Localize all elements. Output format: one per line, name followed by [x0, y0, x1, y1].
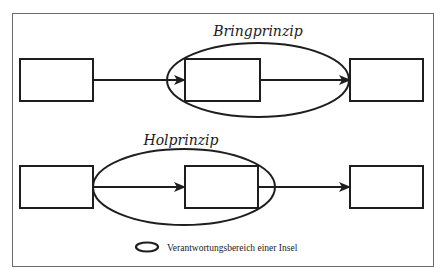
process-box-3: [350, 166, 423, 208]
row-bringprinzip: Bringprinzip: [20, 23, 423, 117]
principle-diagram: Bringprinzip Holprinzip Verantwortungsbe…: [0, 0, 445, 276]
row-holprinzip: Holprinzip: [20, 132, 423, 225]
diagram-frame: [13, 14, 434, 267]
process-box-1: [20, 166, 93, 208]
process-box-1: [20, 59, 93, 101]
row-title-bringprinzip: Bringprinzip: [212, 23, 302, 39]
process-box-2: [185, 166, 258, 208]
row-title-holprinzip: Holprinzip: [142, 132, 218, 148]
ellipse-icon: [136, 243, 158, 252]
legend: Verantwortungsbereich einer Insel: [136, 243, 298, 253]
process-box-3: [350, 59, 423, 101]
legend-label: Verantwortungsbereich einer Insel: [167, 243, 298, 253]
process-box-2: [185, 59, 260, 101]
